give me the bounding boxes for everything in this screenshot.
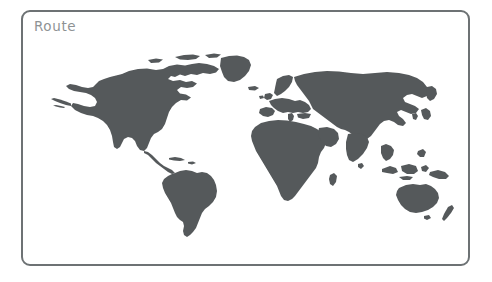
landmass-balkans (297, 113, 311, 119)
landmass-iberia (259, 107, 275, 117)
landmass-kamchatka (426, 86, 437, 101)
landmass-scandinavia (274, 75, 293, 96)
landmass-iceland (248, 86, 259, 91)
world-map-container[interactable] (23, 12, 468, 264)
landmass-africa (251, 120, 326, 201)
landmass-arctic-island-1 (175, 55, 200, 61)
landmass-korea (412, 113, 418, 120)
landmass-tasmania (424, 215, 431, 220)
landmass-south-america (162, 170, 217, 237)
landmass-hispaniola (188, 162, 196, 165)
landmass-java (399, 176, 413, 180)
landmass-arctic-island-2 (205, 54, 221, 59)
landmass-aleutian-islands (53, 105, 65, 108)
landmass-italy (288, 113, 294, 122)
landmass-southeast-asia (381, 144, 394, 161)
landmass-greenland (220, 56, 251, 83)
landmass-arctic-island-3 (148, 59, 163, 64)
route-card[interactable]: Route (21, 10, 470, 266)
landmass-japan (421, 108, 431, 120)
landmass-india (346, 133, 369, 162)
landmass-new-zealand (442, 205, 454, 221)
landmass-central-america (144, 151, 175, 174)
landmass-sulawesi (421, 165, 429, 172)
world-map-image[interactable] (49, 44, 455, 245)
landmass-borneo (401, 164, 418, 174)
landmass-caribbean (169, 157, 185, 161)
landmass-sri-lanka (358, 163, 364, 169)
landmass-philippines (417, 149, 426, 157)
page-title: Route (34, 18, 76, 35)
landmass-new-guinea (429, 170, 449, 179)
landmass-western-europe (269, 98, 311, 113)
landmass-british-isles (264, 93, 273, 100)
landmass-north-america (66, 63, 219, 151)
landmass-madagascar (329, 173, 337, 186)
landmass-alaska-aleutians (51, 98, 71, 106)
landmass-australia (396, 184, 439, 213)
landmass-ireland (259, 96, 264, 100)
landmass-sumatra (382, 166, 398, 174)
